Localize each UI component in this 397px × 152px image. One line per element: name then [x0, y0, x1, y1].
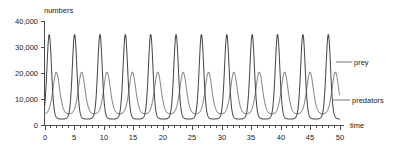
- y-tick-label-10000: 10,000: [15, 95, 38, 104]
- y-tick-label-20000: 20,000: [15, 69, 38, 78]
- x-tick-label-10: 10: [100, 133, 108, 142]
- x-tick-label-50: 50: [336, 133, 344, 142]
- y-axis-title: numbers: [44, 6, 73, 15]
- prey-curve: [45, 35, 340, 120]
- x-tick-label-40: 40: [277, 133, 285, 142]
- x-axis-title: time: [350, 121, 364, 130]
- predator-prey-chart: numbers 40,000 30,000 20,000 10,000 0 0 …: [0, 0, 397, 152]
- x-tick-label-5: 5: [72, 133, 76, 142]
- predators-curve: [45, 72, 340, 114]
- x-tick-label-25: 25: [188, 133, 196, 142]
- y-axis-ticks: [41, 22, 45, 126]
- x-tick-label-15: 15: [129, 133, 137, 142]
- predators-series-label: predators: [352, 96, 384, 105]
- y-tick-label-40000: 40,000: [15, 17, 38, 26]
- x-tick-label-20: 20: [159, 133, 167, 142]
- y-tick-label-30000: 30,000: [15, 43, 38, 52]
- x-tick-label-30: 30: [218, 133, 226, 142]
- x-tick-label-35: 35: [247, 133, 255, 142]
- x-tick-label-45: 45: [306, 133, 314, 142]
- y-tick-label-0: 0: [34, 121, 38, 130]
- x-axis-ticks: [46, 126, 341, 130]
- prey-series-label: prey: [354, 58, 369, 67]
- chart-canvas: numbers 40,000 30,000 20,000 10,000 0 0 …: [0, 0, 397, 152]
- x-tick-label-0: 0: [43, 133, 47, 142]
